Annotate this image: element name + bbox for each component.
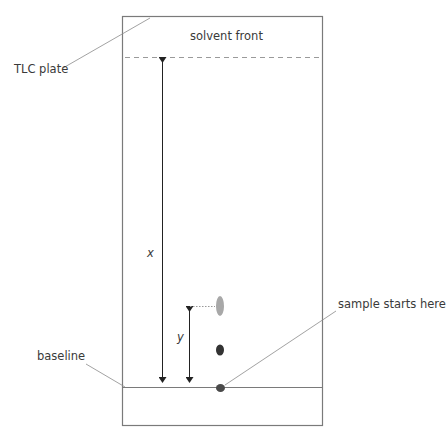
baseline-leader xyxy=(86,364,125,387)
tlc-plate xyxy=(123,17,323,426)
tlc-plate-leader xyxy=(63,18,150,68)
y-label: y xyxy=(177,330,184,344)
sample-start-leader xyxy=(225,311,336,385)
upper-spot xyxy=(216,296,224,316)
x-label: x xyxy=(147,246,154,260)
start-spot xyxy=(216,384,225,392)
sample-start-label: sample starts here xyxy=(338,297,446,311)
baseline-label: baseline xyxy=(37,349,85,363)
solvent-front-label: solvent front xyxy=(190,29,263,43)
tlc-plate-label: TLC plate xyxy=(14,62,68,76)
middle-spot xyxy=(216,345,224,356)
